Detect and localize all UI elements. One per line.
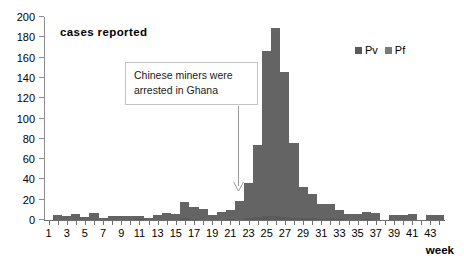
bar-segment-pf	[244, 183, 253, 218]
y-axis-tick: 40	[0, 173, 44, 185]
bar-segment-pv	[326, 218, 335, 220]
bar-stack	[162, 213, 171, 220]
x-axis-tick-mark	[285, 220, 286, 225]
x-axis-tick-mark	[94, 220, 95, 225]
x-axis-tick-mark	[276, 220, 277, 225]
x-axis-tick-label: 27	[279, 226, 291, 240]
bar-stack	[226, 210, 235, 220]
bar-segment-pv	[135, 219, 144, 220]
x-axis-tick-mark	[76, 220, 77, 225]
legend-label: Pv	[365, 44, 378, 56]
bar-segment-pf	[426, 215, 435, 220]
x-axis-tick-mark	[267, 220, 268, 225]
x-axis-tick-mark	[139, 220, 140, 225]
bar-segment-pf	[235, 201, 244, 220]
y-axis-tick-label: 140	[17, 72, 35, 84]
x-axis-tick-mark	[321, 220, 322, 225]
bar-segment-pv	[226, 219, 235, 220]
bar-segment-pf	[280, 72, 289, 217]
bar-stack	[235, 201, 244, 220]
x-axis-tick-label: 13	[152, 226, 164, 240]
y-axis-tick-label: 80	[23, 133, 35, 145]
x-axis-tick-mark	[167, 220, 168, 225]
bar-stack	[199, 209, 208, 220]
x-axis-tick-mark	[349, 220, 350, 225]
bar-segment-pf	[99, 218, 108, 220]
x-axis-tick-mark	[58, 220, 59, 225]
bar-segment-pf	[299, 187, 308, 218]
x-axis-tick-label: 9	[118, 226, 124, 240]
legend-item-pv: Pv	[355, 44, 378, 56]
x-axis-tick-label: 3	[64, 226, 70, 240]
bar-stack	[408, 214, 417, 220]
bar-stack	[126, 216, 135, 220]
bar-segment-pf	[408, 214, 417, 220]
bar-segment-pf	[389, 215, 398, 220]
bar-segment-pf	[253, 145, 262, 217]
x-axis-tick-mark	[130, 220, 131, 225]
x-axis-tick-label: 5	[82, 226, 88, 240]
annotation-line-2: arrested in Ghana	[134, 83, 249, 98]
x-axis-tick-mark	[176, 220, 177, 225]
bar-stack	[53, 215, 62, 220]
x-axis-tick-mark	[230, 220, 231, 225]
x-axis-tick-label: 39	[388, 226, 400, 240]
bar-segment-pf	[71, 214, 80, 220]
bar-stack	[171, 214, 180, 220]
bar-segment-pf	[317, 204, 326, 219]
x-axis-tick-mark	[49, 220, 50, 225]
y-axis-tick-label: 160	[17, 52, 35, 64]
x-axis-tick-mark	[158, 220, 159, 225]
annotation-line-1: Chinese miners were	[134, 68, 249, 83]
x-axis-tick-mark	[294, 220, 295, 225]
bar-segment-pf	[262, 51, 271, 216]
bar-segment-pv	[362, 219, 371, 220]
x-axis-tick-mark	[358, 220, 359, 225]
x-axis-tick-mark	[185, 220, 186, 225]
y-axis-tick-label: 180	[17, 31, 35, 43]
bar-segment-pf	[199, 209, 208, 220]
x-axis-tick-label: 31	[315, 226, 327, 240]
y-axis-tick-label: 60	[23, 153, 35, 165]
x-axis-tick-mark	[403, 220, 404, 225]
x-axis-tick-label: 15	[170, 226, 182, 240]
x-axis-tick-label: 21	[224, 226, 236, 240]
y-axis-tick: 160	[0, 52, 44, 64]
bar-stack	[326, 204, 335, 220]
x-axis-tick-mark	[194, 220, 195, 225]
legend-item-pf: Pf	[385, 44, 405, 56]
bar-stack	[208, 215, 217, 220]
bar-segment-pv	[335, 219, 344, 220]
bar-segment-pf	[371, 213, 380, 220]
bar-stack	[353, 214, 362, 220]
bar-stack	[62, 216, 71, 220]
x-axis-tick-label: 29	[297, 226, 309, 240]
epidemic-curve-chart: cases reported week 02040608010012014016…	[0, 0, 464, 266]
bar-stack	[99, 218, 108, 220]
y-axis-tick-label: 40	[23, 173, 35, 185]
bar-stack	[308, 194, 317, 220]
bar-segment-pf	[89, 213, 98, 220]
annotation-arrow-head-icon	[233, 182, 244, 193]
x-axis-tick-mark	[203, 220, 204, 225]
bar-stack	[371, 213, 380, 220]
x-axis-tick-mark	[239, 220, 240, 225]
bar-segment-pf	[153, 215, 162, 220]
y-axis-tick: 80	[0, 133, 44, 145]
x-axis-title: week	[426, 244, 454, 256]
x-axis-tick-mark	[430, 220, 431, 225]
x-axis-labels: 135791113151719212325272931333537394143	[44, 226, 444, 242]
x-axis-tick-mark	[339, 220, 340, 225]
bar-segment-pv	[289, 218, 298, 220]
x-axis-tick-mark	[421, 220, 422, 225]
bar-stack	[217, 212, 226, 220]
x-axis-tick-mark	[330, 220, 331, 225]
bar-segment-pf	[144, 218, 153, 220]
bar-segment-pf	[344, 214, 353, 220]
legend-label: Pf	[395, 44, 405, 56]
x-axis-tick-label: 41	[406, 226, 418, 240]
y-axis-tick: 120	[0, 92, 44, 104]
bar-stack	[135, 216, 144, 220]
bar-stack	[389, 215, 398, 220]
legend: PvPf	[355, 44, 405, 56]
